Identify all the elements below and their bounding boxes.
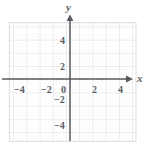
grid-major xyxy=(9,23,136,142)
x-tick-label-neg2: −2 xyxy=(41,85,52,95)
plot-canvas xyxy=(0,0,147,148)
x-tick-label-neg4: −4 xyxy=(14,85,25,95)
x-tick-label-pos2: 2 xyxy=(92,85,97,95)
y-tick-label-pos4: 4 xyxy=(60,36,65,46)
y-axis-label: y xyxy=(66,2,71,13)
y-tick-label-pos2: 2 xyxy=(60,62,65,72)
y-tick-label-neg2: −2 xyxy=(54,95,65,105)
y-tick-label-neg4: −4 xyxy=(54,121,65,131)
coordinate-plane-figure: y x −4 −2 0 2 4 4 2 −2 −4 xyxy=(0,0,147,148)
x-tick-label-pos4: 4 xyxy=(118,85,123,95)
x-axis-label: x xyxy=(137,73,143,84)
